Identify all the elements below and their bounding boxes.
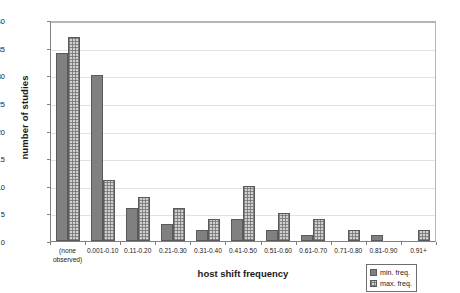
x-category-label: 0.11-0.20 xyxy=(120,246,155,264)
bar-max-freq xyxy=(243,186,255,241)
bar-max-freq xyxy=(138,197,150,241)
plot-area xyxy=(50,21,436,242)
x-category-label: 0.71-0.80 xyxy=(331,246,366,264)
x-category-label: 0.91+ xyxy=(401,246,436,264)
x-category-label: 0.41-0.50 xyxy=(225,246,260,264)
x-tick-mark xyxy=(261,242,262,245)
y-tick-mark xyxy=(47,21,50,22)
y-tick-mark xyxy=(47,159,50,160)
bar-min-freq xyxy=(301,235,313,241)
x-category-label: 0.61-0.70 xyxy=(296,246,331,264)
bar-max-freq xyxy=(348,230,360,241)
bar-group xyxy=(330,22,365,241)
bar-min-freq xyxy=(126,208,138,241)
legend-label-min-freq: min. freq. xyxy=(380,268,410,277)
x-tick-mark xyxy=(296,242,297,245)
y-tick-mark xyxy=(47,214,50,215)
chart-figure: number of studies 0510152025303540 (none… xyxy=(0,0,460,293)
y-tick-mark xyxy=(47,76,50,77)
bar-min-freq xyxy=(56,53,68,241)
bar-groups xyxy=(51,22,435,241)
bar-max-freq xyxy=(173,208,185,241)
bar-max-freq xyxy=(418,230,430,241)
legend-swatch-min-freq xyxy=(370,269,377,276)
y-tick-label: 30 xyxy=(0,72,5,81)
y-tick-mark xyxy=(47,49,50,50)
y-tick-label: 10 xyxy=(0,182,5,191)
legend-label-max-freq: max. freq. xyxy=(380,279,412,288)
x-category-label: 0.21-0.30 xyxy=(155,246,190,264)
x-tick-mark xyxy=(190,242,191,245)
x-category-label: 0.31-0.40 xyxy=(190,246,225,264)
legend-swatch-max-freq xyxy=(370,280,377,287)
y-tick-label: 5 xyxy=(0,210,5,219)
x-category-label: 0.001-0.10 xyxy=(85,246,120,264)
y-axis-title: number of studies xyxy=(19,38,30,198)
x-tick-mark xyxy=(50,242,51,245)
bar-min-freq xyxy=(231,219,243,241)
y-tick-label: 35 xyxy=(0,44,5,53)
bar-max-freq xyxy=(68,37,80,241)
bar-group xyxy=(260,22,295,241)
bar-group xyxy=(156,22,191,241)
x-tick-mark xyxy=(225,242,226,245)
bar-min-freq xyxy=(371,235,383,241)
y-tick-label: 20 xyxy=(0,127,5,136)
bar-group xyxy=(86,22,121,241)
legend-item-max-freq: max. freq. xyxy=(370,278,412,289)
y-tick-label: 40 xyxy=(0,17,5,26)
bar-group xyxy=(365,22,400,241)
bar-min-freq xyxy=(196,230,208,241)
bar-group xyxy=(191,22,226,241)
x-tick-mark xyxy=(401,242,402,245)
bar-min-freq xyxy=(266,230,278,241)
x-tick-mark xyxy=(120,242,121,245)
chart-legend: min. freq. max. freq. xyxy=(366,264,417,292)
bar-min-freq xyxy=(91,75,103,241)
bar-min-freq xyxy=(161,224,173,241)
y-tick-label: 15 xyxy=(0,155,5,164)
y-tick-label: 25 xyxy=(0,99,5,108)
y-tick-mark xyxy=(47,187,50,188)
x-category-label: (none observed) xyxy=(50,246,85,264)
legend-item-min-freq: min. freq. xyxy=(370,267,412,278)
x-axis-category-labels: (none observed)0.001-0.100.11-0.200.21-0… xyxy=(50,246,436,264)
y-tick-label: 0 xyxy=(0,238,5,247)
x-tick-mark xyxy=(366,242,367,245)
y-tick-mark xyxy=(47,132,50,133)
bar-max-freq xyxy=(278,213,290,241)
y-tick-mark xyxy=(47,104,50,105)
bar-group xyxy=(51,22,86,241)
x-tick-mark xyxy=(436,242,437,245)
x-category-label: 0.51-0.60 xyxy=(261,246,296,264)
bar-max-freq xyxy=(313,219,325,241)
bar-group xyxy=(295,22,330,241)
bar-group xyxy=(226,22,261,241)
bar-max-freq xyxy=(208,219,220,241)
x-tick-mark xyxy=(155,242,156,245)
x-tick-mark xyxy=(331,242,332,245)
bar-group xyxy=(400,22,435,241)
bar-group xyxy=(121,22,156,241)
x-category-label: 0.81-0.90 xyxy=(366,246,401,264)
bar-max-freq xyxy=(103,180,115,241)
x-tick-mark xyxy=(85,242,86,245)
